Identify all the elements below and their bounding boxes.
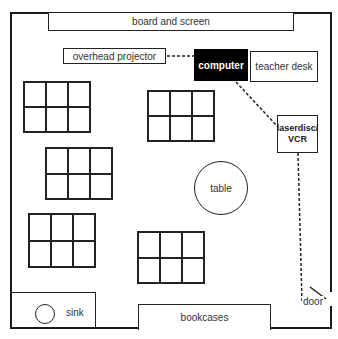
connection-lines	[0, 0, 338, 339]
computer-vcr-link	[236, 82, 278, 127]
vcr-door-link	[298, 153, 302, 302]
door-gap	[328, 292, 334, 306]
door-label: door	[302, 296, 324, 307]
